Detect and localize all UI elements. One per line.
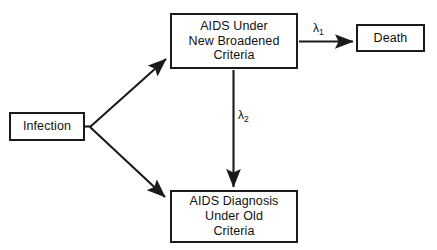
node-infection[interactable]: Infection [9,112,85,141]
edge-label-lambda-1: λ1 [313,22,324,34]
edge-label-lambda-2: λ2 [238,109,249,121]
node-aids-diagnosis-under-old-criteria[interactable]: AIDS Diagnosis Under Old Criteria [170,190,298,243]
edge-infection-to-aids-new [90,59,166,127]
lambda-1-subscript: 1 [319,27,324,37]
flow-diagram-canvas: Infection AIDS Under New Broadened Crite… [0,0,437,250]
node-death[interactable]: Death [356,24,425,52]
lambda-2-subscript: 2 [244,114,249,124]
edge-infection-to-aids-old [90,127,165,197]
node-aids-under-new-broadened-criteria[interactable]: AIDS Under New Broadened Criteria [170,13,298,69]
